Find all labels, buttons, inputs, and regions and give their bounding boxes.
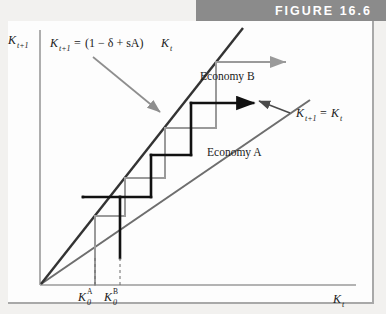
k0a-base: K — [77, 290, 87, 304]
growth-eq-equals: = — [74, 36, 81, 50]
y-axis-label: K t+1 — [7, 33, 29, 50]
staircase-economy-b — [83, 103, 253, 258]
k0a-subscript: 0 — [87, 298, 91, 307]
tick-label-k0a: K 0 A — [77, 287, 93, 307]
y-axis-label-base: K — [7, 33, 17, 47]
growth-eq-knext: K — [49, 36, 59, 50]
tick-label-k0b: K 0 B — [103, 287, 118, 307]
growth-eq-know: K — [160, 36, 170, 50]
economy-a-label: Economy A — [207, 146, 262, 159]
forty-five-line-pointer-arrow — [259, 101, 290, 113]
x-axis-label-base: K — [332, 292, 342, 306]
axis-group — [40, 30, 356, 285]
ff-knext-sub: t+1 — [305, 114, 317, 123]
k0b-subscript: 0 — [113, 298, 117, 307]
economy-b-label: Economy B — [200, 70, 255, 83]
growth-eq-knext-sub: t+1 — [59, 44, 71, 53]
growth-eq-know-sub: t — [170, 44, 173, 53]
ff-know: K — [330, 106, 340, 120]
figure-diagram: K t+1 K t K t+1 = (1 − δ + sA) K t K t+1… — [0, 0, 386, 314]
growth-equation-label: K t+1 = (1 − δ + sA) K t — [49, 36, 173, 53]
forty-five-line-label: K t+1 = K t — [295, 106, 343, 123]
k0b-base: K — [103, 290, 113, 304]
ff-equals: = — [320, 106, 327, 120]
figure-root: FIGURE 16.6 — [0, 0, 386, 314]
k0b-superscript: B — [113, 287, 118, 296]
y-axis-label-subscript: t+1 — [17, 41, 29, 50]
ff-know-sub: t — [340, 114, 343, 123]
growth-eq-expression: (1 − δ + sA) — [85, 36, 144, 50]
growth-equation-pointer-arrow — [93, 57, 160, 112]
x-axis-label-subscript: t — [342, 300, 345, 309]
k0a-superscript: A — [87, 287, 93, 296]
x-axis-label: K t — [332, 292, 345, 309]
ff-knext: K — [295, 106, 305, 120]
